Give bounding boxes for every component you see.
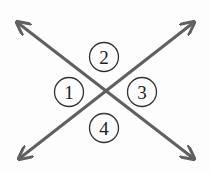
angle-label-2: 2 xyxy=(90,43,119,72)
angle-label-3: 3 xyxy=(128,78,157,107)
angle-label-4: 4 xyxy=(90,114,119,143)
angle-label-1: 1 xyxy=(55,78,84,107)
svg-text:3: 3 xyxy=(137,82,147,103)
svg-text:4: 4 xyxy=(99,118,109,139)
svg-text:2: 2 xyxy=(99,47,109,68)
intersecting-lines-diagram: 1 2 3 4 xyxy=(0,0,210,173)
svg-text:1: 1 xyxy=(64,82,74,103)
diagram-canvas: 1 2 3 4 xyxy=(0,0,210,173)
